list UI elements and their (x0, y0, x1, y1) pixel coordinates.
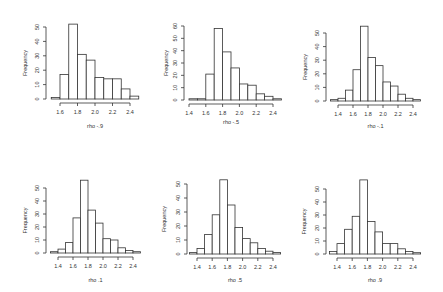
histogram-bar (352, 216, 360, 254)
y-tick-label: 10 (314, 84, 320, 90)
y-tick-label: 10 (34, 237, 40, 243)
x-tick-label: 2.4 (129, 263, 137, 269)
x-tick-label: 1.4 (193, 264, 201, 270)
x-tick-label: 2.2 (394, 111, 402, 117)
x-tick-label: 1.8 (364, 111, 372, 117)
x-tick-label: 1.8 (219, 110, 227, 116)
histogram-bar (78, 54, 87, 99)
x-tick-label: 1.6 (202, 110, 210, 116)
x-axis-label: rho -.9 (87, 123, 103, 129)
histogram-bar (383, 82, 391, 101)
y-tick-label: 30 (172, 60, 178, 66)
x-tick-label: 2.0 (379, 111, 387, 117)
histogram-bar (121, 89, 130, 99)
y-tick-label: 50 (34, 185, 40, 191)
histogram-bar (353, 70, 361, 101)
y-axis-label: Frequency (302, 54, 308, 80)
histogram-bar (248, 85, 256, 100)
histogram-bar (329, 251, 337, 254)
y-axis-label: Frequency (22, 50, 28, 76)
x-tick-label: 2.0 (236, 110, 244, 116)
y-tick-label: 10 (172, 85, 178, 91)
x-tick-label: 1.8 (84, 263, 92, 269)
x-tick-label: 1.6 (56, 109, 64, 115)
y-tick-label: 40 (34, 38, 40, 44)
histogram-bar (243, 239, 251, 254)
y-axis-label: Frequency (301, 208, 307, 234)
x-tick-label: 1.4 (185, 110, 193, 116)
histogram-bar (95, 77, 104, 99)
histogram-bar (413, 253, 421, 254)
histogram-bar (197, 248, 205, 254)
histogram-bottom-middle: 010203040501.41.61.82.02.22.4rho .5Frequ… (161, 180, 281, 283)
x-tick-label: 1.4 (334, 111, 342, 117)
x-tick-label: 2.2 (109, 109, 117, 115)
x-tick-label: 1.8 (364, 264, 372, 270)
histogram-bar (130, 96, 139, 99)
histogram-bar (413, 100, 421, 101)
x-tick-label: 2.4 (126, 109, 134, 115)
x-tick-label: 2.0 (99, 263, 107, 269)
histogram-bar (227, 205, 235, 254)
histogram-bar (273, 99, 281, 100)
x-tick-label: 2.4 (269, 264, 277, 270)
histogram-bar (133, 252, 141, 253)
x-axis-label: rho .5 (228, 277, 242, 283)
histogram-bar (111, 240, 119, 253)
histogram-bar (273, 253, 281, 254)
x-tick-label: 2.2 (252, 110, 260, 116)
histogram-bar (212, 215, 220, 254)
histogram-bar (58, 249, 66, 253)
y-tick-label: 40 (172, 48, 178, 54)
histogram-bar (66, 243, 74, 253)
histogram-bar (383, 244, 391, 254)
histogram-grid: 010203040501.61.82.02.22.4rho -.9Frequen… (0, 0, 443, 292)
y-tick-label: 30 (314, 212, 320, 218)
histogram-bar (398, 249, 406, 254)
histogram-bar (223, 52, 231, 100)
histogram-bar (235, 227, 243, 254)
y-tick-label: 30 (34, 53, 40, 59)
histogram-bar (214, 28, 222, 100)
histogram-bar (96, 223, 104, 253)
x-axis-label: rho -.1 (368, 123, 384, 129)
histogram-bar (360, 180, 368, 254)
histogram-bar (189, 99, 197, 100)
histogram-bar (126, 250, 134, 253)
histogram-top-left: 010203040501.61.82.02.22.4rho -.9Frequen… (22, 24, 139, 129)
histogram-bar (375, 232, 383, 254)
y-tick-label: 0 (314, 99, 320, 102)
histogram-bar (405, 251, 413, 254)
y-tick-label: 20 (175, 223, 181, 229)
histogram-bar (337, 244, 345, 254)
histogram-bottom-left: 010203040501.41.61.82.02.22.4rho .1Frequ… (22, 180, 141, 283)
y-tick-label: 40 (175, 195, 181, 201)
histogram-bar (86, 60, 95, 99)
y-axis-label: Frequency (22, 207, 28, 233)
y-axis-label: Frequency (161, 206, 167, 232)
histogram-bar (69, 24, 78, 99)
histogram-bar (361, 26, 369, 101)
histogram-bar (206, 74, 214, 100)
y-tick-label: 20 (172, 72, 178, 78)
x-tick-label: 1.6 (348, 264, 356, 270)
histogram-bar (368, 57, 376, 101)
histogram-bar (81, 180, 89, 253)
y-tick-label: 50 (175, 181, 181, 187)
x-tick-label: 2.4 (409, 264, 417, 270)
y-tick-label: 0 (172, 98, 178, 101)
y-tick-label: 10 (175, 237, 181, 243)
y-tick-label: 0 (34, 251, 40, 254)
histogram-bar (103, 239, 111, 253)
x-tick-label: 2.2 (114, 263, 122, 269)
histogram-bar (51, 252, 59, 253)
histogram-bar (331, 100, 339, 101)
histogram-bar (113, 79, 122, 99)
y-tick-label: 30 (34, 211, 40, 217)
y-tick-label: 0 (175, 252, 181, 255)
y-tick-label: 10 (34, 82, 40, 88)
histogram-bar (239, 84, 247, 100)
histogram-bar (88, 210, 96, 253)
y-tick-label: 10 (314, 238, 320, 244)
y-tick-label: 20 (34, 67, 40, 73)
